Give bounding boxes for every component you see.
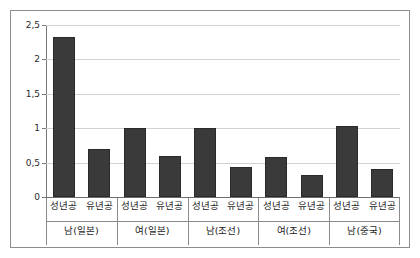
group-separator (188, 198, 189, 222)
bar (230, 167, 252, 197)
y-tick-label: 2 (34, 55, 40, 64)
group-label: 여(조선) (277, 226, 311, 236)
group-separator-lower (329, 221, 330, 245)
group-band-left-edge (46, 221, 47, 245)
y-tick-label: 0,5 (26, 158, 40, 167)
group-labels: 남(일본)여(일본)남(조선)여(조선)남(중국) (46, 221, 400, 245)
bar (88, 149, 110, 197)
category-label: 유년공 (369, 201, 396, 211)
group-separator (329, 198, 330, 222)
category-labels: 성년공유년공성년공유년공성년공유년공성년공유년공성년공유년공 (46, 198, 400, 221)
category-label: 성년공 (50, 201, 77, 211)
bar (159, 156, 181, 197)
bar (336, 126, 358, 197)
group-separator-lower (188, 221, 189, 245)
bar (371, 169, 393, 197)
group-label: 남(중국) (347, 226, 381, 236)
category-label: 성년공 (121, 201, 148, 211)
bar (301, 175, 323, 197)
group-band-right-edge (399, 221, 400, 245)
bar (53, 37, 75, 197)
group-separator (117, 198, 118, 222)
group-separator-lower (117, 221, 118, 245)
y-tick-label: 0 (34, 193, 40, 202)
y-tick-label: 1 (34, 124, 40, 133)
y-tick-label: 2,5 (26, 21, 40, 30)
group-label: 남(일본) (64, 226, 98, 236)
plot-area: 00,511,522,5 (46, 25, 400, 197)
category-label: 성년공 (263, 201, 290, 211)
category-label: 성년공 (192, 201, 219, 211)
bar (194, 128, 216, 197)
category-label: 유년공 (227, 201, 254, 211)
group-separator (258, 198, 259, 222)
category-label: 성년공 (333, 201, 360, 211)
bar (124, 128, 146, 197)
bar (265, 157, 287, 197)
y-tick-label: 1,5 (26, 89, 40, 98)
chart-figure: 00,511,522,5 성년공유년공성년공유년공성년공유년공성년공유년공성년공… (0, 0, 420, 258)
group-separator-lower (258, 221, 259, 245)
bar-series (46, 25, 400, 197)
group-label: 남(조선) (206, 226, 240, 236)
group-label: 여(일본) (135, 226, 169, 236)
category-label: 유년공 (86, 201, 113, 211)
category-label: 유년공 (156, 201, 183, 211)
category-label: 유년공 (298, 201, 325, 211)
